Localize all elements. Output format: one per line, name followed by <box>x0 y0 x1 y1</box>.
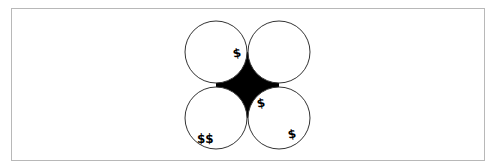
circle-bottom-left <box>185 87 247 149</box>
circle-top-right <box>248 21 310 83</box>
four-circles-diagram: $ $ $$ $ <box>0 0 491 167</box>
double-dollar-marker-icon: $$ <box>197 132 214 146</box>
